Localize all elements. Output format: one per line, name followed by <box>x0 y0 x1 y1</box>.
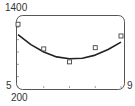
data-point-marker <box>68 60 72 64</box>
data-point-marker <box>119 34 123 38</box>
data-point-marker <box>42 47 46 51</box>
data-point-marker <box>16 22 20 26</box>
data-markers <box>16 22 123 64</box>
data-point-marker <box>93 46 97 50</box>
axis-ticks <box>17 27 121 88</box>
plot-area <box>0 0 135 106</box>
fit-curve <box>18 35 121 59</box>
plot-frame <box>17 16 125 90</box>
